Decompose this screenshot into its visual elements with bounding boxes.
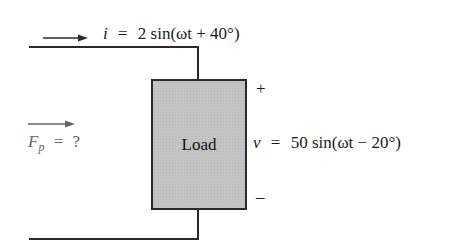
voltage-formula: 50 sin(ωt − 20°) (291, 133, 401, 152)
current-symbol: i (103, 24, 108, 43)
bottom-vertical-wire (197, 206, 199, 240)
current-expression: i = 2 sin(ωt + 40°) (103, 24, 240, 44)
power-flow-arrow (28, 121, 75, 128)
load-box: Load (151, 79, 247, 210)
plus-sign: + (256, 79, 266, 99)
bottom-wire (29, 238, 199, 240)
voltage-expression: v = 50 sin(ωt − 20°) (253, 133, 401, 153)
voltage-equals: = (271, 133, 281, 152)
voltage-symbol: v (253, 133, 261, 152)
top-vertical-wire (197, 46, 199, 80)
current-formula: 2 sin(ωt + 40°) (138, 24, 240, 43)
power-factor-subscript: p (38, 140, 44, 154)
current-direction-arrow (43, 35, 88, 42)
power-factor-equals: = (54, 132, 64, 151)
minus-sign: – (256, 187, 265, 207)
top-wire (29, 46, 199, 48)
power-factor-label: Fp = ? (28, 132, 80, 155)
load-label: Load (182, 135, 217, 155)
power-factor-symbol: F (28, 132, 38, 151)
current-equals: = (118, 24, 128, 43)
power-factor-value: ? (72, 132, 80, 151)
